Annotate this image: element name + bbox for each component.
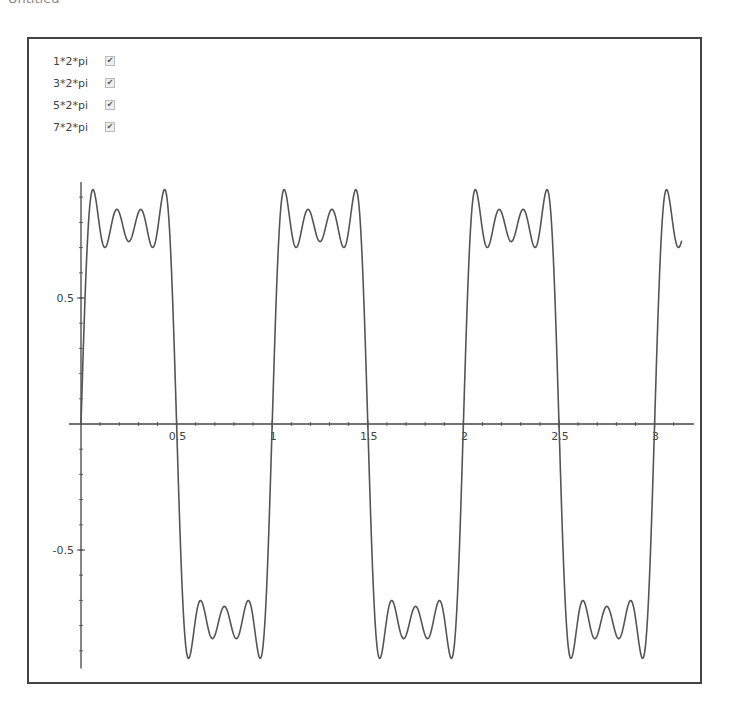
y-tick-label: -0.5 <box>53 544 74 557</box>
y-tick-label: 0.5 <box>57 292 75 305</box>
axes <box>69 182 694 668</box>
x-tick-label: 2 <box>461 430 468 443</box>
plot-area: 0.511.522.530.5-0.5 <box>0 0 733 723</box>
x-tick-label: 3 <box>652 430 659 443</box>
x-tick-label: 1 <box>270 430 277 443</box>
